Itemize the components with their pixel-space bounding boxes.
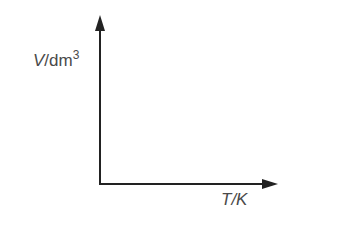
y-axis-variable: V [33,51,44,70]
x-axis-label: T/K [221,190,247,210]
x-axis-variable: T [221,190,231,209]
y-axis-label: V/dm3 [33,48,79,71]
y-axis-exponent: 3 [73,48,80,62]
x-axis-arrow-icon [262,179,278,189]
y-axis-arrow-icon [95,15,105,31]
axes [0,0,350,248]
x-axis-unit: /K [231,190,247,209]
y-axis-unit: /dm [44,51,72,70]
